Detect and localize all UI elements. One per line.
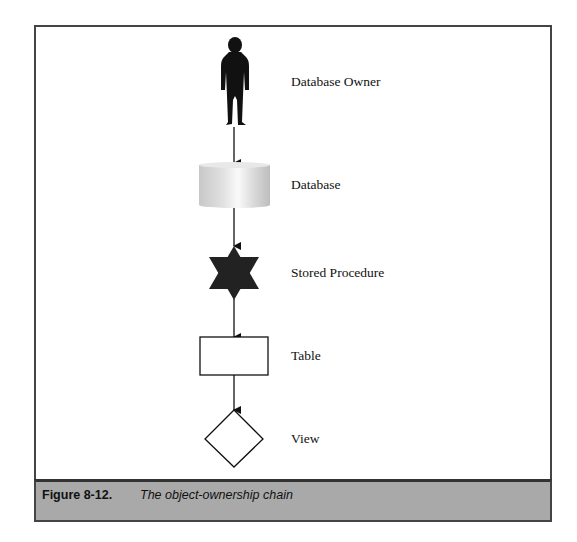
node-label-database-owner: Database Owner <box>291 74 381 90</box>
database-cylinder-icon <box>199 162 270 208</box>
stored-procedure-star-icon <box>209 246 259 300</box>
node-label-database: Database <box>291 177 340 193</box>
node-label-stored-procedure: Stored Procedure <box>291 265 384 281</box>
person-icon <box>221 37 249 125</box>
ownership-chain-diagram <box>0 0 577 542</box>
table-rectangle-icon <box>200 337 268 375</box>
node-label-view: View <box>291 431 319 447</box>
figure-number: Figure 8-12. <box>42 488 112 502</box>
figure-caption-text: The object-ownership chain <box>140 488 293 502</box>
figure-caption-bar: Figure 8-12. The object-ownership chain <box>34 479 552 522</box>
node-label-table: Table <box>291 348 321 364</box>
view-diamond-icon <box>205 410 263 467</box>
